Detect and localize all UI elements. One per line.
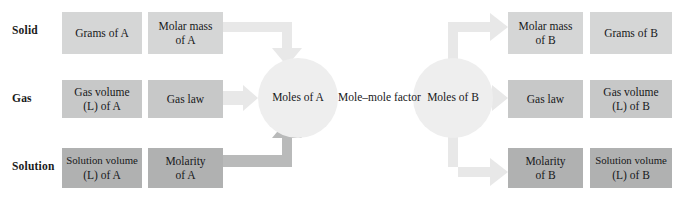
box-molar-mass-of-a-line2: of A: [175, 33, 195, 47]
row-label-solid: Solid: [12, 24, 38, 36]
box-solution-volume-l-of-a-line1: Solution volume: [66, 154, 138, 167]
box-gas-law-b-line1: Gas law: [527, 92, 564, 106]
box-gas-law-a-line1: Gas law: [167, 92, 204, 106]
box-gas-volume-l-of-a: Gas volume (L) of A: [62, 80, 142, 118]
box-molar-mass-of-a-line1: Molar mass: [159, 19, 213, 33]
box-grams-of-b: Grams of B: [590, 12, 672, 54]
box-solution-volume-l-of-a: Solution volume (L) of A: [62, 148, 142, 188]
box-gas-volume-l-of-b-line2: (L) of B: [612, 99, 650, 113]
moles-of-b-label: Moles of B: [413, 91, 493, 103]
box-molarity-of-a-line1: Molarity: [165, 154, 205, 168]
box-gas-law-a: Gas law: [148, 80, 223, 118]
box-grams-of-a: Grams of A: [62, 12, 142, 54]
box-molarity-of-a-line2: of A: [175, 168, 195, 182]
box-gas-volume-l-of-a-line1: Gas volume: [74, 85, 129, 99]
box-solution-volume-l-of-b-line2: (L) of B: [612, 168, 650, 182]
box-molarity-of-b-line2: of B: [535, 168, 555, 182]
box-molarity-of-b-line1: Molarity: [525, 154, 565, 168]
box-molar-mass-of-b-line2: of B: [535, 33, 555, 47]
stoichiometry-diagram: Solid Gas Solution Moles of A: [0, 0, 685, 200]
box-solution-volume-l-of-a-line2: (L) of A: [83, 168, 121, 182]
box-grams-of-b-line1: Grams of B: [604, 26, 658, 40]
box-gas-volume-l-of-b: Gas volume (L) of B: [590, 80, 672, 118]
box-solution-volume-l-of-b: Solution volume (L) of B: [590, 148, 672, 188]
box-molar-mass-of-b: Molar mass of B: [508, 12, 583, 54]
row-label-solution: Solution: [12, 160, 55, 172]
box-gas-volume-l-of-a-line2: (L) of A: [83, 99, 121, 113]
box-molarity-of-a: Molarity of A: [148, 148, 223, 188]
row-label-gas: Gas: [12, 92, 32, 104]
box-solution-volume-l-of-b-line1: Solution volume: [595, 154, 667, 167]
mole-mole-factor-label: Mole–mole factor: [338, 91, 413, 103]
moles-of-a-label: Moles of A: [258, 91, 338, 103]
box-grams-of-a-line1: Grams of A: [75, 26, 129, 40]
arrow-gas-a-to-moles: [222, 85, 258, 111]
box-molarity-of-b: Molarity of B: [508, 148, 583, 188]
box-molar-mass-of-b-line1: Molar mass: [519, 19, 573, 33]
box-gas-volume-l-of-b-line1: Gas volume: [603, 85, 658, 99]
box-gas-law-b: Gas law: [508, 80, 583, 118]
box-molar-mass-of-a: Molar mass of A: [148, 12, 223, 54]
